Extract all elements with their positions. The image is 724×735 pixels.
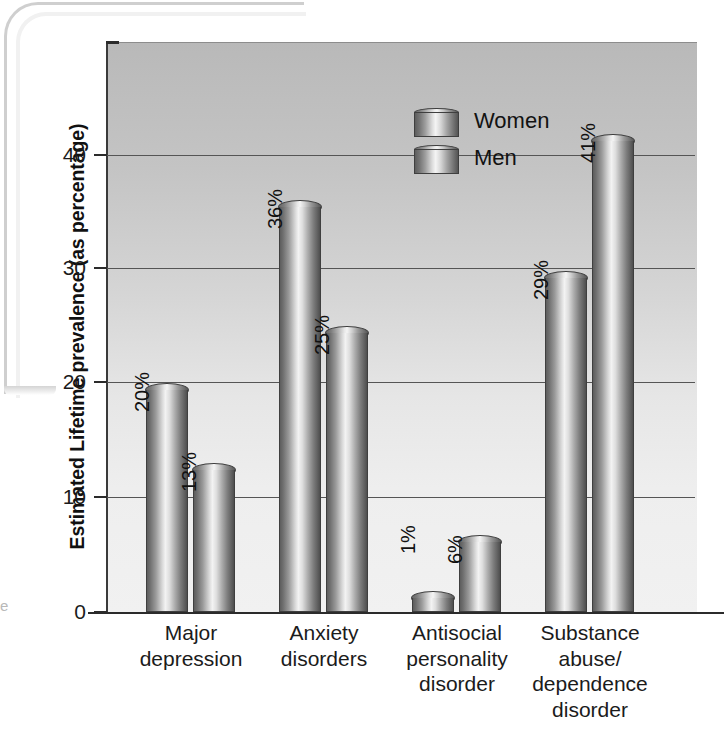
- y-tick-mark-30: [94, 267, 107, 269]
- bar-antisocial-personality-disorder-women[interactable]: [412, 591, 454, 612]
- x-category-line: Substance: [499, 620, 681, 646]
- bar-anxiety-disorders-men[interactable]: [326, 326, 368, 612]
- bar-substance-abuse-men[interactable]: [592, 134, 634, 612]
- bar-body: [326, 333, 368, 612]
- bar-value-label-anxiety-disorders-men: 25%: [312, 315, 332, 355]
- legend-swatch-men-icon: [414, 145, 459, 174]
- bar-value-label-antisocial-personality-disorder-women: 1%: [398, 525, 418, 554]
- bar-value-label-anxiety-disorders-women: 36%: [265, 189, 285, 229]
- legend-item-women[interactable]: Women: [414, 105, 594, 142]
- edge-text-artifact: e: [0, 598, 14, 613]
- legend-swatch-women-icon: [414, 108, 459, 137]
- legend: Women Men: [414, 105, 594, 179]
- bar-body: [592, 141, 634, 612]
- legend-label-women: Women: [474, 107, 549, 135]
- bar-value-label-substance-abuse-women: 29%: [531, 260, 551, 300]
- bar-major-depression-women[interactable]: [146, 383, 188, 612]
- y-tick-mark-10: [94, 496, 107, 498]
- y-axis-top-tick: [106, 41, 119, 44]
- y-tick-mark-20: [94, 381, 107, 383]
- y-tick-label-0: 0: [26, 601, 86, 622]
- y-tick-mark-40: [94, 154, 107, 156]
- chart-page: e Estimated Lifetime prevalence (as perc…: [0, 0, 724, 735]
- x-category-line: abuse/: [499, 646, 681, 672]
- x-category-label-substance-abuse-dependence-disorder: Substance abuse/ dependence disorder: [499, 620, 681, 722]
- bar-body: [146, 390, 188, 612]
- bar-body: [545, 278, 587, 612]
- bar-value-label-major-depression-women: 20%: [132, 372, 152, 412]
- y-tick-label-20: 20: [26, 371, 86, 392]
- y-axis-title: Estimated Lifetime prevalence (as percen…: [66, 57, 89, 617]
- x-category-line: disorder: [499, 697, 681, 723]
- legend-item-men[interactable]: Men: [414, 142, 594, 179]
- x-category-line: dependence: [499, 671, 681, 697]
- bar-anxiety-disorders-women[interactable]: [279, 200, 321, 612]
- y-tick-label-10: 10: [26, 486, 86, 507]
- bar-value-label-major-depression-men: 13%: [179, 452, 199, 492]
- x-axis-line: [88, 612, 724, 614]
- legend-label-men: Men: [474, 144, 517, 172]
- legend-swatch-body: [414, 149, 459, 174]
- bar-body: [279, 207, 321, 612]
- y-tick-label-40: 40: [26, 144, 86, 165]
- bar-body: [412, 598, 454, 612]
- legend-swatch-body: [414, 112, 459, 137]
- bar-value-label-antisocial-personality-disorder-men: 6%: [445, 535, 465, 564]
- y-tick-label-30: 30: [26, 257, 86, 278]
- bar-substance-abuse-women[interactable]: [545, 271, 587, 612]
